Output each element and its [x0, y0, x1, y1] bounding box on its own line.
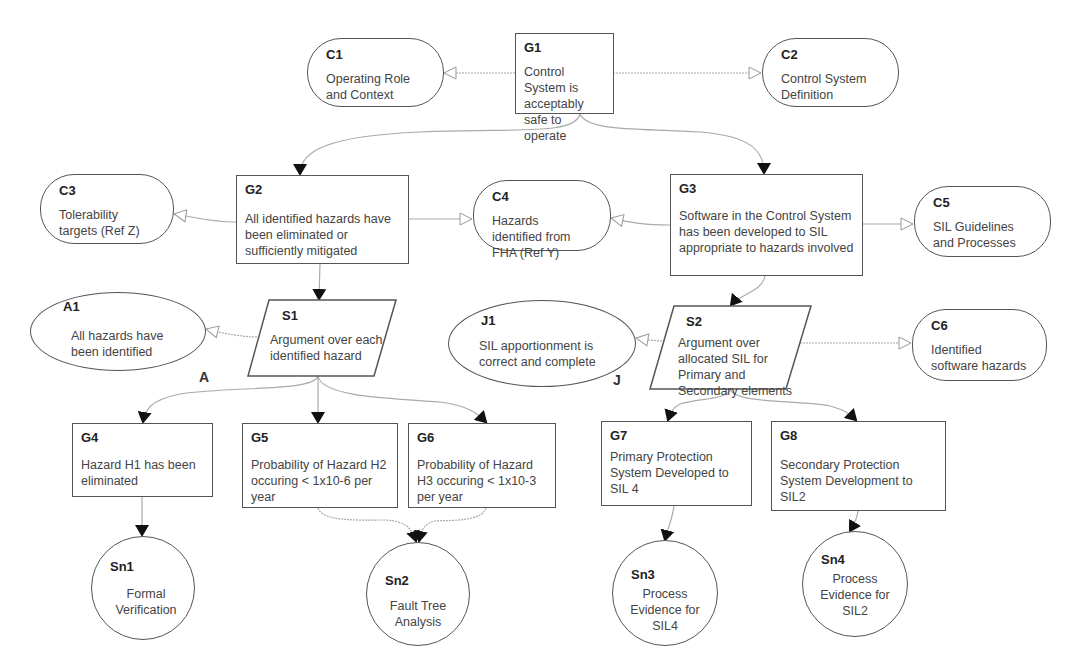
strategy-s1: S1 Argument over each identified hazard [268, 302, 394, 370]
node-id: C4 [492, 189, 592, 204]
node-text: Tolerability targets (Ref Z) [59, 207, 155, 239]
node-text: Probability of Hazard H3 occuring < 1x10… [417, 457, 547, 505]
node-text: Hazards identified from FHA (Ref Y) [492, 213, 592, 261]
edge-g7-sn3 [665, 506, 674, 540]
goal-g1[interactable]: G1 Control System is acceptably safe to … [515, 33, 614, 114]
node-text: Argument over allocated SIL for Primary … [678, 335, 800, 399]
node-text: All identified hazards have been elimina… [245, 211, 400, 259]
node-text: Process Evidence for SIL2 [803, 571, 907, 619]
justification-tag: J [613, 372, 621, 388]
solution-sn1[interactable]: Sn1 Formal Verification [91, 536, 195, 640]
node-id: G1 [524, 40, 605, 55]
goal-g7[interactable]: G7 Primary Protection System Developed t… [601, 421, 752, 506]
justification-j1[interactable]: J1 SIL apportionment is correct and comp… [448, 300, 636, 387]
node-text: Primary Protection System Developed to S… [610, 449, 743, 497]
solution-sn2[interactable]: Sn2 Fault Tree Analysis [366, 542, 470, 646]
context-c3[interactable]: C3 Tolerability targets (Ref Z) [40, 174, 174, 244]
edge-g8-sn4 [850, 511, 858, 531]
node-id: G8 [780, 428, 937, 443]
node-text: Identified software hazards [931, 342, 1028, 374]
edge-g5-sn2 [318, 508, 416, 541]
goal-g4[interactable]: G4 Hazard H1 has been eliminated [72, 423, 213, 497]
node-id: C3 [59, 183, 155, 198]
node-text: Control System is acceptably safe to ope… [524, 64, 605, 144]
node-id: S1 [282, 308, 384, 323]
node-text: Argument over each identified hazard [270, 332, 384, 364]
solution-sn3[interactable]: Sn3 Process Evidence for SIL4 [612, 540, 718, 646]
context-c4[interactable]: C4 Hazards identified from FHA (Ref Y) [473, 180, 611, 251]
goal-g6[interactable]: G6 Probability of Hazard H3 occuring < 1… [408, 423, 556, 508]
context-c6[interactable]: C6 Identified software hazards [912, 309, 1047, 381]
goal-g8[interactable]: G8 Secondary Protection System Developme… [771, 421, 946, 511]
edge-g3-s2 [731, 276, 765, 305]
edge-g2-c3 [174, 214, 236, 222]
edge-s1-g4 [143, 376, 318, 422]
node-text: Probability of Hazard H2 occuring < 1x10… [251, 457, 389, 505]
context-c5[interactable]: C5 SIL Guidelines and Processes [914, 186, 1051, 257]
context-c2[interactable]: C2 Control System Definition [762, 38, 899, 107]
node-text: Formal Verification [92, 580, 194, 618]
node-id: Sn2 [367, 573, 469, 588]
solution-sn4[interactable]: Sn4 Process Evidence for SIL2 [802, 531, 908, 637]
node-text: Operating Role and Context [326, 71, 425, 103]
node-id: C2 [781, 47, 880, 62]
node-id: G6 [417, 430, 547, 445]
node-text: Hazard H1 has been eliminated [81, 457, 204, 489]
edge-g3-c4 [611, 218, 670, 225]
node-text: SIL apportionment is correct and complet… [479, 338, 609, 370]
node-id: C1 [326, 47, 425, 62]
edge-g6-sn2 [419, 508, 486, 541]
node-id: G7 [610, 428, 743, 443]
edge-g2-s1 [319, 264, 320, 299]
node-text: SIL Guidelines and Processes [933, 219, 1032, 251]
goal-g3[interactable]: G3 Software in the Control System has be… [670, 174, 863, 276]
node-text: Fault Tree Analysis [367, 594, 469, 630]
node-text: Control System Definition [781, 71, 880, 103]
node-id: C5 [933, 195, 1032, 210]
node-id: S2 [686, 314, 800, 329]
goal-g5[interactable]: G5 Probability of Hazard H2 occuring < 1… [242, 423, 398, 508]
node-id: J1 [481, 313, 609, 328]
node-id: C6 [931, 318, 1028, 333]
node-text: Process Evidence for SIL4 [613, 586, 717, 634]
node-id: G4 [81, 430, 204, 445]
node-id: Sn4 [803, 552, 907, 567]
context-c1[interactable]: C1 Operating Role and Context [307, 38, 444, 107]
assumption-tag: A [199, 369, 209, 385]
node-text: Secondary Protection System Development … [780, 457, 937, 505]
node-text: Software in the Control System has been … [679, 208, 854, 256]
edge-s1-g6 [318, 376, 486, 422]
node-id: G2 [245, 182, 400, 197]
node-text: All hazards have been identified [71, 328, 179, 360]
node-id: G3 [679, 181, 854, 196]
node-id: A1 [63, 299, 179, 314]
assumption-a1[interactable]: A1 All hazards have been identified [30, 292, 206, 371]
edge-g1-g3 [580, 114, 764, 173]
strategy-s2: S2 Argument over allocated SIL for Prima… [670, 308, 810, 405]
node-id: Sn1 [92, 559, 194, 574]
node-id: G5 [251, 430, 389, 445]
node-id: Sn3 [613, 567, 717, 582]
goal-g2[interactable]: G2 All identified hazards have been elim… [236, 175, 409, 264]
